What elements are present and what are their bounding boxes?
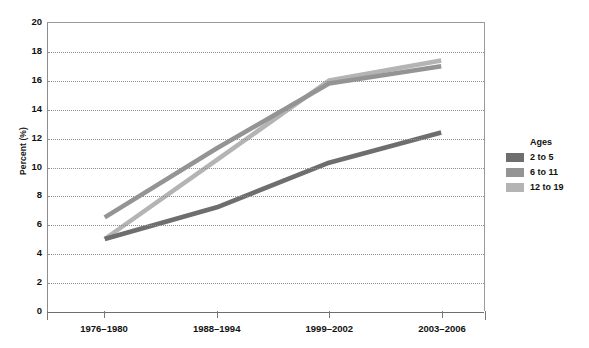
- series-line: [105, 60, 441, 239]
- x-axis-tick: [217, 311, 218, 318]
- gridline: [48, 225, 484, 226]
- x-axis-tick: [329, 311, 330, 318]
- y-axis-tick-label: 6: [16, 219, 42, 229]
- legend: Ages 2 to 56 to 1112 to 19: [506, 138, 564, 197]
- legend-swatch: [506, 168, 524, 177]
- gridline: [48, 196, 484, 197]
- plot-area: [47, 22, 485, 311]
- gridline: [48, 254, 484, 255]
- x-axis-tick: [442, 311, 443, 318]
- x-axis: 1976–19801988–19941999–20022003–2006: [0, 311, 589, 348]
- y-axis-tick-label: 14: [16, 104, 42, 114]
- x-axis-tick-label: 2003–2006: [418, 323, 466, 334]
- gridline: [48, 283, 484, 284]
- x-axis-tick-label: 1976–1980: [80, 323, 128, 334]
- gridline: [48, 168, 484, 169]
- y-axis-tick-label: 18: [16, 46, 42, 56]
- y-axis-tick-label: 10: [16, 162, 42, 172]
- x-axis-edge-tick: [47, 311, 48, 320]
- x-axis-tick-label: 1988–1994: [193, 323, 241, 334]
- legend-item-label: 2 to 5: [530, 153, 554, 162]
- gridline: [48, 139, 484, 140]
- legend-item: 12 to 19: [506, 182, 564, 192]
- legend-title: Ages: [530, 138, 564, 147]
- legend-item: 2 to 5: [506, 152, 564, 162]
- y-axis-tick-labels: 02468101214161820: [12, 0, 42, 348]
- y-axis-tick-label: 16: [16, 75, 42, 85]
- gridline: [48, 52, 484, 53]
- legend-swatch: [506, 183, 524, 192]
- legend-item-label: 12 to 19: [530, 183, 564, 192]
- legend-swatch: [506, 153, 524, 162]
- x-axis-tick-label: 1999–2002: [306, 323, 354, 334]
- legend-item: 6 to 11: [506, 167, 564, 177]
- y-axis-tick-label: 12: [16, 133, 42, 143]
- y-axis-tick-label: 20: [16, 17, 42, 27]
- y-axis-tick-label: 8: [16, 190, 42, 200]
- gridline: [48, 81, 484, 82]
- series-line: [105, 66, 441, 217]
- x-axis-edge-tick: [485, 311, 486, 320]
- legend-items: 2 to 56 to 1112 to 19: [506, 152, 564, 192]
- y-axis-tick-label: 2: [16, 277, 42, 287]
- line-chart: Percent (%) 02468101214161820 1976–19801…: [0, 0, 589, 348]
- legend-item-label: 6 to 11: [530, 168, 558, 177]
- y-axis-tick-label: 4: [16, 248, 42, 258]
- gridline: [48, 110, 484, 111]
- x-axis-tick: [104, 311, 105, 318]
